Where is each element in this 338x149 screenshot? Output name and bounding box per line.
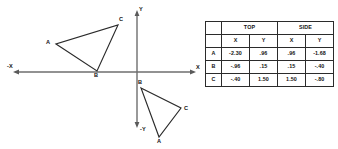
top-triangle-vertex-label-a: A bbox=[46, 40, 50, 46]
coordinate-table: TOP SIDE X Y X Y A -2.30 .96 .96 -1.68 B… bbox=[205, 21, 334, 87]
table-row: B -.96 .15 .15 -.40 bbox=[206, 61, 334, 74]
axis-label-negative-x: -X bbox=[7, 64, 13, 70]
table-cell-a-side-x: .96 bbox=[278, 48, 306, 61]
table-sub-header-top-x: X bbox=[222, 35, 250, 48]
table-cell-a-top-y: .96 bbox=[250, 48, 278, 61]
table-cell-b-side-x: .15 bbox=[278, 61, 306, 74]
axis-label-positive-y: Y bbox=[139, 7, 143, 13]
table-cell-c-side-x: 1.50 bbox=[278, 74, 306, 87]
table-sub-header-row: X Y X Y bbox=[206, 35, 334, 48]
coordinate-table-panel: TOP SIDE X Y X Y A -2.30 .96 .96 -1.68 B… bbox=[205, 21, 333, 87]
x-axis-negative-arrow-icon bbox=[13, 70, 19, 75]
table-group-header-side: SIDE bbox=[278, 22, 334, 35]
table-row-label-b: B bbox=[206, 61, 222, 74]
table-cell-b-side-y: -.40 bbox=[306, 61, 334, 74]
top-view-triangle bbox=[56, 25, 118, 71]
table-cell-c-top-y: 1.50 bbox=[250, 74, 278, 87]
y-axis-negative-arrow-icon bbox=[135, 122, 140, 128]
table-cell-c-top-x: -.40 bbox=[222, 74, 250, 87]
table-cell-b-top-x: -.96 bbox=[222, 61, 250, 74]
table-group-header-top: TOP bbox=[222, 22, 278, 35]
axis-label-positive-x: X bbox=[196, 65, 200, 71]
table-row: C -.40 1.50 1.50 -.80 bbox=[206, 74, 334, 87]
table-sub-header-top-y: Y bbox=[250, 35, 278, 48]
table-group-header-row: TOP SIDE bbox=[206, 22, 334, 35]
top-triangle-vertex-label-b: B bbox=[94, 73, 98, 79]
table-sub-header-side-x: X bbox=[278, 35, 306, 48]
table-sub-header-side-y: Y bbox=[306, 35, 334, 48]
top-triangle-vertex-label-c: C bbox=[119, 17, 123, 23]
coordinate-figure-panel: -X X Y -Y A B C B C A bbox=[0, 0, 200, 149]
table-cell-c-side-y: -.80 bbox=[306, 74, 334, 87]
table-row-label-c: C bbox=[206, 74, 222, 87]
table-cell-b-top-y: .15 bbox=[250, 61, 278, 74]
side-triangle-vertex-label-b: B bbox=[138, 80, 142, 86]
axis-label-negative-y: -Y bbox=[140, 127, 146, 133]
side-triangle-vertex-label-a: A bbox=[157, 139, 161, 145]
side-view-triangle bbox=[141, 88, 181, 137]
table-corner-cell-lower bbox=[206, 35, 222, 48]
table-corner-cell bbox=[206, 22, 222, 35]
table-cell-a-side-y: -1.68 bbox=[306, 48, 334, 61]
table-cell-a-top-x: -2.30 bbox=[222, 48, 250, 61]
table-row-label-a: A bbox=[206, 48, 222, 61]
table-row: A -2.30 .96 .96 -1.68 bbox=[206, 48, 334, 61]
side-triangle-vertex-label-c: C bbox=[184, 106, 188, 112]
coordinate-figure-svg bbox=[0, 0, 200, 149]
